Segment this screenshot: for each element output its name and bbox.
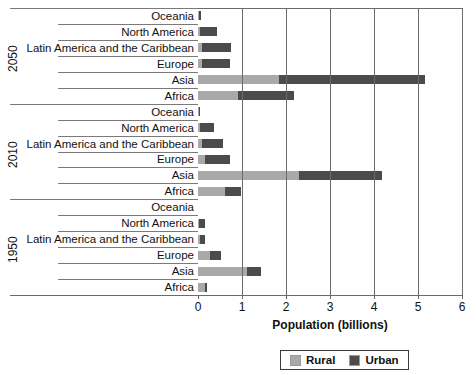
- row-separator: [58, 72, 198, 73]
- row-separator: [58, 247, 198, 248]
- category-label-oceania: Oceania: [151, 201, 194, 213]
- legend-label-urban: Urban: [365, 354, 398, 366]
- category-label-africa: Africa: [165, 281, 194, 293]
- bar-segment-urban: [202, 59, 230, 68]
- category-label-latin-america-and-the-caribbean: Latin America and the Caribbean: [27, 42, 195, 54]
- category-label-north-america: North America: [121, 122, 194, 134]
- gridline-3: [330, 8, 331, 295]
- bar-segment-urban: [200, 235, 205, 244]
- bar-segment-rural: [198, 267, 247, 276]
- row-separator: [58, 136, 198, 137]
- category-label-europe: Europe: [157, 249, 194, 261]
- category-label-europe: Europe: [157, 58, 194, 70]
- legend-item-rural: Rural: [290, 354, 335, 366]
- bar-segment-rural: [198, 251, 210, 260]
- row-separator: [58, 56, 198, 57]
- category-label-asia: Asia: [172, 265, 194, 277]
- x-tick-label-0: 0: [183, 300, 213, 314]
- row-separator: [10, 8, 198, 9]
- category-label-asia: Asia: [172, 169, 194, 181]
- bar-segment-urban: [247, 267, 261, 276]
- row-separator: [58, 231, 198, 232]
- bar-segment-rural: [198, 155, 205, 164]
- row-separator: [10, 104, 198, 105]
- bar-segment-urban: [205, 155, 231, 164]
- chart-legend: Rural Urban: [280, 350, 409, 370]
- x-tick-6: [462, 295, 463, 299]
- x-tick-label-4: 4: [359, 300, 389, 314]
- bar-segment-urban: [225, 187, 241, 196]
- bar-segment-urban: [199, 219, 205, 228]
- category-label-africa: Africa: [165, 90, 194, 102]
- x-tick-label-6: 6: [447, 300, 476, 314]
- bar-segment-urban: [202, 139, 224, 148]
- row-separator: [10, 199, 198, 200]
- row-separator: [58, 215, 198, 216]
- bar-segment-rural: [198, 91, 238, 100]
- category-label-latin-america-and-the-caribbean: Latin America and the Caribbean: [27, 233, 195, 245]
- category-label-europe: Europe: [157, 153, 194, 165]
- bar-segment-urban: [199, 107, 200, 116]
- bar-segment-rural: [198, 171, 299, 180]
- bar-segment-urban: [299, 171, 382, 180]
- bar-segment-rural: [198, 187, 225, 196]
- urban-swatch-icon: [349, 355, 360, 366]
- row-separator: [58, 40, 198, 41]
- x-tick-label-2: 2: [271, 300, 301, 314]
- x-tick-4: [374, 295, 375, 299]
- bar-segment-rural: [198, 283, 205, 292]
- row-separator: [58, 183, 198, 184]
- category-label-oceania: Oceania: [151, 106, 194, 118]
- bar-segment-urban: [279, 75, 424, 84]
- row-separator: [58, 88, 198, 89]
- rural-swatch-icon: [290, 355, 301, 366]
- category-label-north-america: North America: [121, 217, 194, 229]
- row-separator: [58, 24, 198, 25]
- population-stacked-bar-chart: 205020101950 OceaniaNorth AmericaLatin A…: [0, 0, 476, 375]
- bar-segment-urban: [200, 27, 217, 36]
- row-separator: [58, 167, 198, 168]
- x-tick-2: [286, 295, 287, 299]
- row-separator: [58, 120, 198, 121]
- category-label-north-america: North America: [121, 26, 194, 38]
- category-label-africa: Africa: [165, 185, 194, 197]
- bar-segment-urban: [202, 43, 231, 52]
- x-tick-0: [198, 295, 199, 299]
- x-tick-label-1: 1: [227, 300, 257, 314]
- category-label-latin-america-and-the-caribbean: Latin America and the Caribbean: [27, 138, 195, 150]
- row-separator: [58, 279, 198, 280]
- category-label-oceania: Oceania: [151, 10, 194, 22]
- gridline-1: [242, 8, 243, 295]
- gridline-5: [418, 8, 419, 295]
- category-label-asia: Asia: [172, 74, 194, 86]
- row-separator: [58, 263, 198, 264]
- gridline-6: [462, 8, 463, 295]
- x-tick-label-3: 3: [315, 300, 345, 314]
- x-tick-5: [418, 295, 419, 299]
- bar-segment-urban: [205, 283, 206, 292]
- x-tick-label-5: 5: [403, 300, 433, 314]
- legend-item-urban: Urban: [349, 354, 398, 366]
- bar-segment-urban: [199, 11, 201, 20]
- bar-segment-urban: [210, 251, 221, 260]
- legend-label-rural: Rural: [306, 354, 335, 366]
- gridline-4: [374, 8, 375, 295]
- x-tick-1: [242, 295, 243, 299]
- gridline-2: [286, 8, 287, 295]
- x-tick-3: [330, 295, 331, 299]
- row-separator: [58, 152, 198, 153]
- x-axis-title: Population (billions): [198, 318, 462, 332]
- bar-segment-rural: [198, 75, 279, 84]
- bar-segment-urban: [200, 123, 215, 132]
